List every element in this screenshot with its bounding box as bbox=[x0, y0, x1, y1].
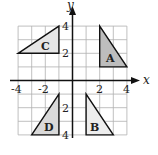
y-tick-label: 2 bbox=[62, 102, 69, 115]
x-tick-label: 4 bbox=[123, 83, 130, 96]
axes bbox=[10, 12, 134, 138]
x-axis-arrow-icon bbox=[131, 77, 140, 84]
label-c: C bbox=[41, 40, 50, 53]
x-tick-label: -4 bbox=[11, 83, 22, 96]
x-axis-label: x bbox=[143, 73, 150, 87]
x-tick-label: 2 bbox=[96, 83, 103, 96]
coordinate-plane: x y -4 -2 2 4 4 2 2 4 C A D B bbox=[0, 0, 158, 155]
label-a: A bbox=[105, 52, 115, 65]
y-tick-label: 4 bbox=[62, 20, 69, 33]
label-d: D bbox=[44, 121, 54, 134]
label-b: B bbox=[90, 121, 99, 134]
x-tick-label: -2 bbox=[38, 83, 49, 96]
y-tick-label: 4 bbox=[62, 129, 69, 142]
y-axis-label: y bbox=[66, 0, 74, 12]
y-tick-label: 2 bbox=[62, 47, 69, 60]
